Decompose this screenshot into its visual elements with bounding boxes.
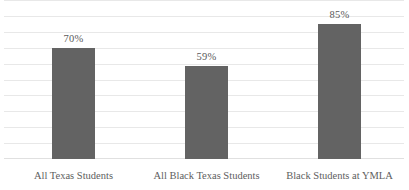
bar-all-texas-students[interactable] [52, 48, 95, 159]
bar-group-1: 70% [52, 0, 95, 159]
bar-group-2: 59% [185, 0, 228, 159]
bar-black-students-at-ymla[interactable] [318, 24, 361, 159]
category-label-2: All Black Texas Students [141, 169, 272, 182]
bar-chart: 70% 59% 85% All Texas Students All Black… [0, 0, 409, 190]
bar-value-label-3: 85% [304, 9, 375, 21]
bar-value-label-2: 59% [171, 51, 242, 63]
bars-layer: 70% 59% 85% [0, 0, 409, 159]
bar-value-label-1: 70% [38, 33, 109, 45]
category-label-1: All Texas Students [8, 169, 139, 182]
category-axis: All Texas Students All Black Texas Stude… [0, 159, 409, 190]
bar-all-black-texas-students[interactable] [185, 66, 228, 159]
bar-group-3: 85% [318, 0, 361, 159]
category-label-3: Black Students at YMLA [274, 169, 405, 182]
